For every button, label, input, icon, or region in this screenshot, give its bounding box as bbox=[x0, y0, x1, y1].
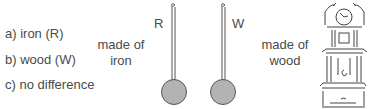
pendulum-w-icon bbox=[211, 4, 236, 105]
diagram-graphics bbox=[0, 0, 372, 109]
pendulum-r-icon bbox=[162, 4, 187, 105]
grandfather-clock-icon bbox=[320, 3, 367, 107]
